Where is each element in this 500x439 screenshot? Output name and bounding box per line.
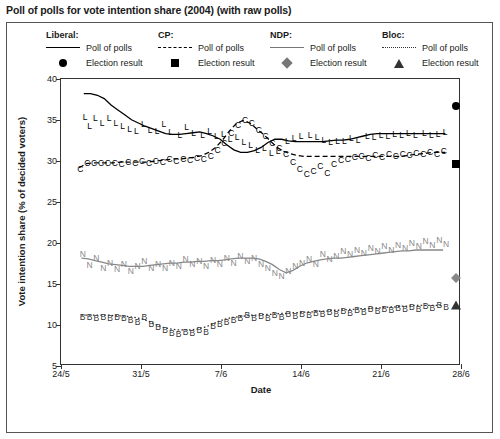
raw-poll-point: L (429, 130, 434, 140)
raw-poll-point: L (184, 122, 189, 132)
raw-poll-point: B (382, 304, 388, 314)
raw-poll-point: C (269, 138, 275, 148)
x-tick-label: 31/5 (132, 369, 150, 379)
raw-poll-point: B (361, 307, 367, 317)
raw-poll-point: B (169, 328, 175, 338)
raw-poll-point: C (235, 120, 241, 130)
raw-poll-point: N (196, 256, 202, 266)
y-tick-mark (56, 243, 61, 244)
raw-poll-point: B (436, 300, 442, 310)
raw-poll-point: C (420, 149, 426, 159)
raw-poll-point: C (400, 149, 406, 159)
raw-poll-point: C (84, 158, 90, 168)
raw-poll-point: L (148, 125, 153, 135)
raw-poll-point: L (262, 143, 267, 153)
raw-poll-point: B (114, 312, 120, 322)
raw-poll-point: N (306, 254, 312, 264)
raw-poll-point: N (436, 235, 442, 245)
raw-poll-point: N (121, 259, 127, 269)
raw-poll-point: B (354, 305, 360, 315)
raw-poll-point: C (194, 153, 200, 163)
raw-poll-point: N (388, 245, 394, 255)
raw-poll-point: L (413, 130, 418, 140)
legend-marker-label: Election result (310, 58, 367, 68)
raw-poll-point: N (265, 263, 271, 273)
raw-poll-point: N (333, 251, 339, 261)
raw-poll-point: B (340, 306, 346, 316)
raw-poll-point: L (342, 136, 347, 146)
raw-poll-point: B (80, 312, 86, 322)
raw-poll-point: B (142, 312, 148, 322)
raw-poll-point: C (283, 149, 289, 159)
raw-poll-point: N (237, 251, 243, 261)
raw-poll-point: C (317, 161, 323, 171)
raw-poll-point: B (272, 310, 278, 320)
raw-poll-point: N (429, 240, 435, 250)
raw-poll-point: C (324, 168, 330, 178)
x-tick-label: 21/6 (372, 369, 390, 379)
raw-poll-point: B (162, 325, 168, 335)
legend-line-entry: Poll of polls (270, 40, 367, 55)
raw-poll-point: L (372, 132, 377, 142)
raw-poll-point: N (347, 249, 353, 259)
raw-poll-point: C (338, 155, 344, 165)
x-tick-mark (301, 364, 302, 369)
raw-poll-point: L (422, 128, 427, 138)
raw-poll-point: N (340, 246, 346, 256)
raw-poll-point: B (368, 304, 374, 314)
raw-poll-point: N (374, 246, 380, 256)
election-result-marker (451, 301, 461, 310)
raw-poll-point: C (139, 156, 145, 166)
y-tick-mark (56, 284, 61, 285)
raw-poll-point: N (155, 259, 161, 269)
raw-poll-point: N (381, 241, 387, 251)
legend-marker-label: Election result (422, 58, 479, 68)
raw-poll-point: L (443, 127, 448, 137)
raw-poll-point: B (375, 306, 381, 316)
raw-poll-point: B (251, 313, 257, 323)
raw-poll-point: B (210, 321, 216, 331)
raw-poll-point: N (224, 253, 230, 263)
raw-poll-point: C (208, 151, 214, 161)
raw-poll-point: L (379, 130, 384, 140)
triangle-marker-icon (394, 59, 404, 68)
raw-poll-point: B (320, 309, 326, 319)
raw-poll-point: C (372, 150, 378, 160)
chart-title: Poll of polls for vote intention share (… (6, 4, 292, 16)
raw-poll-point: N (114, 264, 120, 274)
raw-poll-point: B (183, 327, 189, 337)
raw-poll-point: L (161, 119, 166, 129)
legend-marker-swatch (270, 58, 304, 68)
raw-poll-point: B (224, 317, 230, 327)
plot-area: Date 51015202530354024/531/57/614/621/62… (60, 78, 460, 365)
raw-poll-point: C (180, 154, 186, 164)
raw-poll-point: B (203, 327, 209, 337)
raw-poll-point: C (276, 143, 282, 153)
raw-poll-point: C (187, 155, 193, 165)
legend-group-title: CP: (158, 30, 255, 40)
raw-poll-point: B (299, 309, 305, 319)
circle-marker-icon (59, 59, 67, 67)
legend-line-swatch (46, 43, 80, 53)
raw-poll-point: N (326, 254, 332, 264)
raw-poll-point: C (153, 156, 159, 166)
legend-marker-swatch (382, 58, 416, 68)
raw-poll-point: N (313, 259, 319, 269)
raw-poll-point: L (349, 133, 354, 143)
raw-poll-point: B (306, 310, 312, 320)
raw-poll-point: L (308, 130, 313, 140)
raw-poll-point: N (93, 253, 99, 263)
raw-poll-point: N (80, 249, 86, 259)
raw-poll-point: C (427, 147, 433, 157)
raw-poll-point: B (334, 309, 340, 319)
raw-poll-point: C (125, 157, 131, 167)
raw-poll-point: L (168, 127, 173, 137)
raw-poll-point: B (402, 304, 408, 314)
y-tick-mark (56, 161, 61, 162)
raw-poll-point: N (416, 241, 422, 251)
raw-poll-point: C (228, 128, 234, 138)
raw-poll-point: B (196, 325, 202, 335)
raw-poll-point: B (217, 319, 223, 329)
y-tick-mark (56, 120, 61, 121)
legend-marker-entry: Election result (158, 55, 255, 70)
